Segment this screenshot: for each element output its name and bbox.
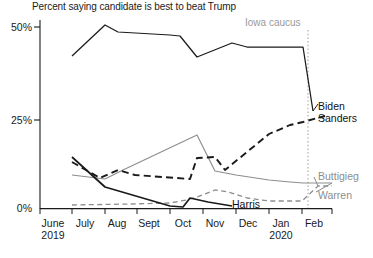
series-line-sanders xyxy=(72,116,325,179)
series-line-biden xyxy=(72,25,313,111)
leader-line-warren xyxy=(316,183,332,192)
series-line-warren xyxy=(72,135,332,183)
series-line-harris xyxy=(72,157,232,207)
chart-root: Percent saying candidate is best to beat… xyxy=(0,0,373,258)
leader-line-buttigieg xyxy=(314,177,318,186)
chart-plot-area xyxy=(0,0,373,258)
leader-line-biden xyxy=(313,104,318,111)
